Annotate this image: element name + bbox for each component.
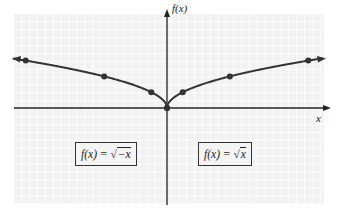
radical-icon: √ [233, 148, 239, 160]
data-point [148, 89, 154, 95]
data-point [23, 58, 29, 64]
data-point [305, 58, 311, 64]
y-axis-label: f(x) [172, 2, 187, 14]
data-point [101, 73, 107, 79]
data-point [180, 89, 186, 95]
data-point [164, 105, 170, 111]
data-point [227, 73, 233, 79]
left-equation-box: f(x) = √−x [75, 142, 137, 166]
right-equation-box: f(x) = √x [198, 142, 252, 166]
function-graph [0, 0, 340, 213]
left-eq-arg: −x [117, 147, 131, 160]
x-axis-label: x [316, 112, 321, 124]
radical-icon: √ [110, 148, 116, 160]
right-eq-arg: x [240, 147, 246, 160]
left-eq-lhs: f(x) = [81, 148, 110, 160]
right-eq-lhs: f(x) = [204, 148, 233, 160]
